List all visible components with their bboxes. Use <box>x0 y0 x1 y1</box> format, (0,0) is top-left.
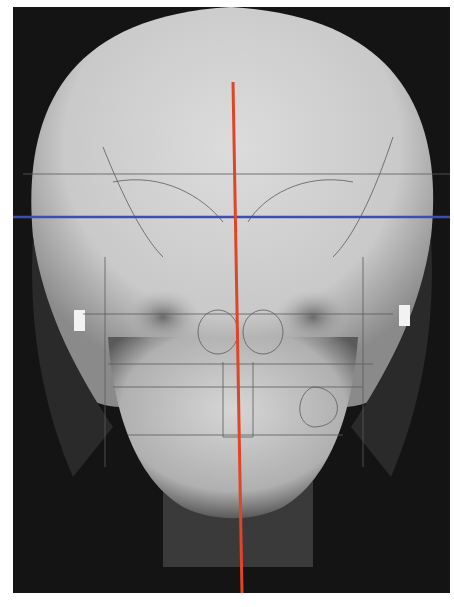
skull-radiograph <box>13 7 450 593</box>
left-orbit <box>125 289 201 345</box>
left-ear-rod <box>74 310 85 331</box>
right-orbit <box>275 289 351 345</box>
radiograph-frame <box>13 7 450 593</box>
right-ear-rod <box>399 305 410 326</box>
